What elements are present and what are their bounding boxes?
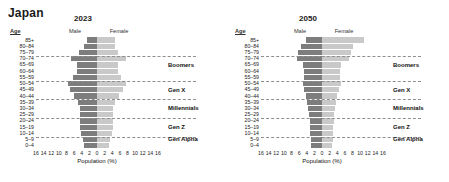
x-tick-label: 6: [298, 150, 301, 156]
bar-male: [70, 87, 97, 92]
bar-male: [80, 125, 97, 130]
bar-female: [322, 75, 340, 80]
bar-pair: [261, 143, 383, 149]
bar-female: [322, 44, 353, 49]
x-axis-title: Population (%): [261, 158, 383, 164]
bar-female: [322, 93, 337, 98]
x-tick-label: 12: [48, 150, 54, 156]
bar-male: [304, 75, 322, 80]
x-tick-label: 8: [290, 150, 293, 156]
bar-female: [97, 106, 113, 111]
generation-label-gen-x: Gen X: [168, 87, 185, 93]
bar-female: [97, 50, 118, 55]
generation-label-boomers: Boomers: [393, 62, 419, 68]
generation-divider: [261, 99, 421, 100]
x-tick-label: 10: [132, 150, 138, 156]
age-column-header: Age: [235, 28, 246, 34]
age-group-label: 65–69: [8, 62, 34, 67]
bar-female: [97, 56, 126, 61]
bar-female: [97, 137, 110, 142]
pyramid-row: 0–4: [8, 143, 158, 149]
bar-male: [308, 106, 322, 111]
bar-female: [322, 131, 333, 136]
generation-divider: [261, 118, 421, 119]
bar-male: [78, 100, 97, 105]
bar-female: [97, 112, 113, 117]
bar-female: [322, 112, 334, 117]
x-tick-label: 16: [33, 150, 39, 156]
x-tick-label: 0: [321, 150, 324, 156]
bar-male: [310, 118, 322, 123]
pyramid-row: 0–4: [233, 143, 383, 149]
bar-female: [322, 69, 340, 74]
bar-male: [310, 125, 322, 130]
generation-label-gen-x: Gen X: [393, 87, 410, 93]
generation-label-gen-alpha: Gen Alpha: [393, 136, 423, 142]
bar-male: [84, 143, 97, 148]
chart-title-2023: 2023: [8, 14, 158, 23]
age-group-label: 45–49: [8, 87, 34, 92]
age-group-label: 40–44: [8, 94, 34, 99]
pyramid-panel-2050: 2050AgeMaleFemale85+80–8475–7970–7465–69…: [233, 14, 449, 182]
bar-female: [322, 106, 335, 111]
bar-female: [97, 93, 119, 98]
bar-female: [97, 143, 109, 148]
bar-female: [97, 62, 118, 67]
bar-female: [322, 125, 333, 130]
bar-male: [80, 106, 97, 111]
generation-divider: [36, 99, 196, 100]
bar-male: [303, 81, 322, 86]
bar-male: [311, 143, 322, 148]
x-tick-label: 0: [96, 150, 99, 156]
bar-male: [80, 112, 97, 117]
bar-female: [97, 100, 115, 105]
age-group-label: 0–4: [8, 143, 34, 148]
x-tick-label: 4: [336, 150, 339, 156]
x-tick-label: 6: [118, 150, 121, 156]
x-tick-label: 16: [155, 150, 161, 156]
generation-label-gen-z: Gen Z: [393, 124, 410, 130]
x-tick-label: 12: [273, 150, 279, 156]
age-group-label: 20–24: [8, 118, 34, 123]
age-group-label: 45–49: [233, 87, 259, 92]
x-tick-label: 4: [305, 150, 308, 156]
generation-divider: [36, 118, 196, 119]
bar-male: [298, 50, 322, 55]
x-tick-label: 4: [111, 150, 114, 156]
bar-male: [79, 50, 97, 55]
bar-male: [77, 69, 97, 74]
x-tick-label: 10: [281, 150, 287, 156]
bar-female: [97, 44, 115, 49]
bar-male: [87, 37, 97, 42]
bar-female: [97, 131, 112, 136]
bar-male: [304, 87, 322, 92]
bar-male: [81, 131, 97, 136]
x-tick-label: 2: [103, 150, 106, 156]
bar-male: [304, 69, 322, 74]
legend-female: Female: [99, 28, 139, 34]
bar-male: [310, 131, 322, 136]
x-tick-label: 8: [65, 150, 68, 156]
generation-divider: [36, 56, 196, 57]
bar-female: [97, 125, 113, 130]
age-group-label: 85+: [8, 38, 34, 43]
pyramid-panel-2023: 2023AgeMaleFemale85+80–8475–7970–7465–69…: [8, 14, 230, 182]
x-tick-label: 8: [351, 150, 354, 156]
bar-male: [83, 137, 97, 142]
generation-label-millennials: Millennials: [393, 105, 424, 111]
generation-divider: [261, 56, 421, 57]
bar-pair: [36, 143, 158, 149]
legend-male: Male: [55, 28, 95, 34]
bar-female: [97, 37, 115, 42]
bar-male: [303, 62, 322, 67]
age-group-label: 0–4: [233, 143, 259, 148]
bar-female: [322, 100, 336, 105]
bar-male: [306, 37, 322, 42]
x-tick-label: 10: [56, 150, 62, 156]
bar-female: [97, 118, 113, 123]
generation-divider: [36, 81, 196, 82]
generation-label-millennials: Millennials: [168, 105, 199, 111]
age-group-label: 85+: [233, 38, 259, 43]
bar-female: [322, 137, 333, 142]
x-tick-label: 16: [258, 150, 264, 156]
